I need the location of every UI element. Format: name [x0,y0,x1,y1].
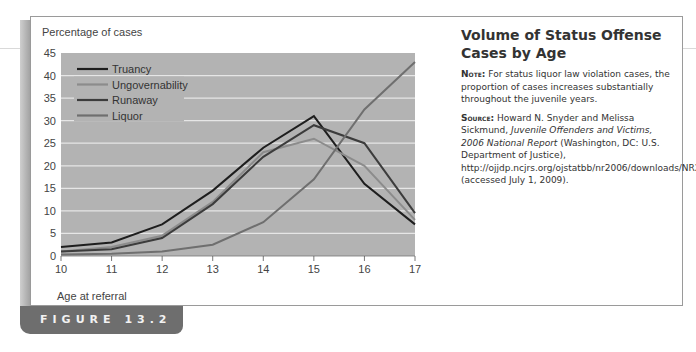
x-tick-label: 17 [409,263,421,275]
figure-caption-panel: Volume of Status Offense Cases by Age No… [461,26,671,193]
y-tick-label: 20 [44,160,56,172]
y-tick-label: 45 [44,47,56,59]
x-tick-label: 16 [358,263,370,275]
x-tick-label: 11 [106,263,117,275]
x-tick-label: 12 [156,263,168,275]
legend-label: Runaway [112,94,158,106]
x-axis-ticks: 1011121314151617 [55,256,421,275]
figure-source: Source: Howard N. Snyder and Melissa Sic… [461,112,671,187]
y-tick-label: 30 [44,115,56,127]
note-label: Note: [461,69,485,79]
y-tick-label: 10 [44,205,56,217]
x-tick-label: 15 [308,263,320,275]
legend-label: Truancy [112,63,152,75]
y-tick-label: 5 [50,227,56,239]
y-tick-label: 40 [44,70,56,82]
x-tick-label: 13 [207,263,219,275]
y-axis-ticks: 051015202530354045 [44,47,56,262]
source-label: Source: [461,113,494,123]
figure-title: Volume of Status Offense Cases by Age [461,26,671,62]
legend-label: Ungovernability [112,79,188,91]
y-tick-label: 25 [44,137,56,149]
figure-note: Note: For status liquor law violation ca… [461,68,671,106]
note-text: For status liquor law violation cases, t… [461,69,670,104]
y-tick-label: 0 [50,250,56,262]
x-tick-label: 10 [55,263,67,275]
y-tick-label: 15 [44,182,56,194]
y-tick-label: 35 [44,92,56,104]
x-tick-label: 14 [257,263,269,275]
legend-label: Liquor [112,110,143,122]
